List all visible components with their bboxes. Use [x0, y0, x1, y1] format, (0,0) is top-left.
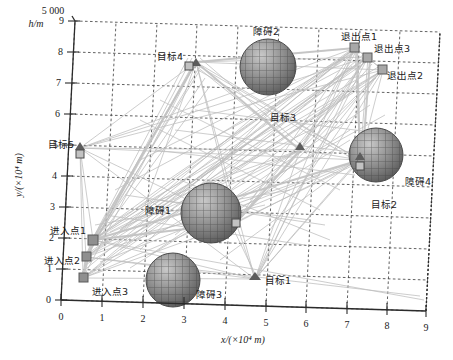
svg-text:0: 0	[59, 311, 64, 322]
exit-point-1-label: 退出点1	[341, 31, 377, 42]
h-axis-label: h/m	[29, 18, 44, 29]
exit-point-3-label: 退出点3	[374, 43, 410, 54]
exit-point-1-marker[interactable]	[350, 43, 359, 52]
y-axis-label: y/(×10⁴ m)	[13, 152, 25, 197]
svg-text:0: 0	[46, 294, 51, 305]
svg-text:3: 3	[50, 201, 55, 212]
svg-text:4: 4	[52, 170, 57, 181]
svg-text:8: 8	[58, 46, 63, 57]
svg-text:3: 3	[182, 314, 187, 325]
svg-text:1: 1	[100, 312, 105, 323]
svg-text:9: 9	[424, 322, 429, 333]
obstacle-4-label: 障碍4	[405, 176, 431, 187]
svg-text:6: 6	[55, 108, 60, 119]
scatter-3d-plot: 0 1 2 3 4 5 6 7 8 9 0 1 2 3 4 5 6 7 8 9 …	[0, 0, 453, 360]
svg-text:7: 7	[56, 77, 61, 88]
target-3-label: 目标3	[270, 112, 296, 123]
entry-point-2-marker[interactable]	[82, 252, 91, 261]
svg-text:2: 2	[141, 313, 146, 324]
svg-text:5: 5	[264, 317, 269, 328]
exit-point-3-marker[interactable]	[363, 53, 372, 62]
svg-text:7: 7	[345, 319, 350, 330]
entry-point-2-label: 进入点2	[44, 255, 80, 266]
altitude-top-label: 5 000	[42, 5, 65, 16]
obstacle-3-sphere	[146, 253, 200, 307]
entry-point-3-label: 进入点3	[92, 286, 128, 297]
svg-text:4: 4	[223, 315, 228, 326]
svg-text:8: 8	[385, 320, 390, 331]
chart-root: 0 1 2 3 4 5 6 7 8 9 0 1 2 3 4 5 6 7 8 9 …	[0, 0, 453, 360]
svg-text:9: 9	[59, 15, 64, 26]
obstacle-3-label: 障碍3	[196, 289, 222, 300]
obstacle-1-label: 障碍1	[145, 205, 171, 216]
x-axis-label: x/(×10⁴ m)	[220, 334, 265, 346]
entry-point-1-label: 进入点1	[50, 225, 86, 236]
target-5-label: 目标5	[48, 139, 74, 150]
target-1-label: 目标1	[265, 275, 291, 286]
svg-text:6: 6	[304, 318, 309, 329]
exit-point-2-marker[interactable]	[378, 65, 387, 74]
entry-point-3-marker[interactable]	[79, 273, 88, 282]
obstacle-2-sphere	[240, 39, 296, 95]
target-2-label: 目标2	[371, 199, 397, 210]
obstacle-2-label: 障碍2	[253, 26, 279, 37]
entry-point-1-marker[interactable]	[88, 235, 98, 245]
target-4-label: 目标4	[157, 51, 183, 62]
obstacle-1-sphere	[181, 183, 241, 243]
exit-point-2-label: 退出点2	[387, 70, 423, 81]
obstacle-4-sphere	[349, 128, 403, 182]
